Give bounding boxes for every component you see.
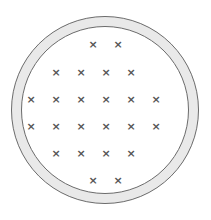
x-mark: ×: [88, 38, 97, 51]
x-mark: ×: [51, 66, 60, 79]
x-mark: ×: [126, 66, 135, 79]
x-mark: ×: [101, 147, 110, 160]
x-mark: ×: [88, 174, 97, 187]
x-mark: ×: [76, 147, 85, 160]
x-mark: ×: [126, 120, 135, 133]
x-mark: ×: [51, 147, 60, 160]
x-mark: ×: [26, 93, 35, 106]
annulus-diagram: ××××××××××××××××××××××××: [0, 0, 211, 220]
figure-canvas: ××××××××××××××××××××××××: [0, 0, 211, 220]
annulus-inner-circle: [22, 27, 189, 194]
x-mark: ×: [126, 93, 135, 106]
x-mark: ×: [76, 66, 85, 79]
x-mark: ×: [76, 120, 85, 133]
x-mark: ×: [151, 93, 160, 106]
x-mark: ×: [113, 38, 122, 51]
x-mark: ×: [101, 120, 110, 133]
x-mark: ×: [76, 93, 85, 106]
x-mark: ×: [51, 93, 60, 106]
x-mark: ×: [101, 66, 110, 79]
x-mark: ×: [126, 147, 135, 160]
x-mark: ×: [151, 120, 160, 133]
x-mark: ×: [113, 174, 122, 187]
x-mark: ×: [51, 120, 60, 133]
x-mark: ×: [101, 93, 110, 106]
x-mark: ×: [26, 120, 35, 133]
